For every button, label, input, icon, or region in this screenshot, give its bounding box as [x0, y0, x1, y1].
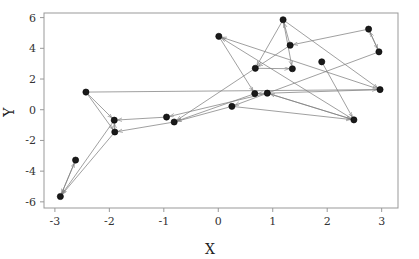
data-point: [376, 49, 382, 55]
data-point: [216, 33, 222, 39]
data-point: [351, 117, 357, 123]
arrow: [88, 94, 112, 117]
arrow: [177, 95, 251, 121]
data-point: [289, 66, 295, 72]
arrow: [286, 22, 378, 88]
data-point: [83, 89, 89, 95]
data-point: [229, 103, 235, 109]
tick-labels-layer: -3-2-10123-6-4-20246: [25, 12, 385, 228]
arrow: [63, 134, 113, 193]
data-point: [111, 117, 117, 123]
x-tick-label: 0: [215, 215, 222, 228]
y-tick-label: 4: [29, 42, 36, 55]
arrow: [177, 70, 253, 120]
data-point: [319, 59, 325, 65]
arrow: [370, 32, 378, 49]
y-tick-label: 2: [29, 73, 36, 86]
arrow-layer: [62, 22, 378, 194]
x-tick-label: -1: [158, 215, 169, 228]
data-point: [252, 65, 258, 71]
plot-canvas: -3-2-10123-6-4-20246 X Y: [0, 0, 419, 259]
data-point: [57, 193, 63, 199]
data-point: [112, 129, 118, 135]
arrow: [88, 95, 113, 130]
x-tick-label: -3: [50, 215, 61, 228]
data-point: [72, 157, 78, 163]
y-tick-label: -2: [25, 134, 36, 147]
y-tick-label: 0: [29, 104, 36, 117]
data-point: [287, 42, 293, 48]
data-point: [377, 87, 383, 93]
y-tick-label: -4: [25, 165, 36, 178]
arrow: [293, 30, 365, 45]
arrow: [62, 163, 75, 193]
x-tick-label: -2: [104, 215, 115, 228]
arrow: [221, 39, 253, 91]
data-point: [252, 91, 258, 97]
arrow: [222, 38, 351, 118]
arrow: [177, 107, 228, 121]
x-tick-label: 3: [378, 215, 385, 228]
data-point: [171, 119, 177, 125]
x-axis-title: X: [205, 241, 215, 257]
arrow: [118, 123, 171, 132]
data-point: [163, 114, 169, 120]
x-tick-label: 2: [324, 215, 331, 228]
data-point: [365, 26, 371, 32]
x-tick-label: 1: [269, 215, 276, 228]
scatter-plot-figure: -3-2-10123-6-4-20246 X Y: [0, 0, 419, 259]
y-axis-title: Y: [1, 107, 17, 118]
plot-frame: [40, 13, 398, 212]
arrow: [170, 94, 264, 116]
arrow: [235, 53, 376, 105]
data-point: [280, 17, 286, 23]
arrow: [62, 123, 112, 194]
data-point: [264, 90, 270, 96]
y-tick-label: 6: [29, 12, 36, 25]
arrow: [118, 117, 164, 120]
y-tick-label: -6: [25, 196, 36, 209]
